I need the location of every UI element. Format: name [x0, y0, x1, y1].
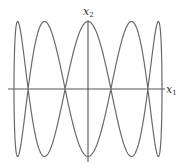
x2-axis-label: x2: [83, 6, 94, 19]
x1-axis-label: x1: [166, 84, 177, 97]
lissajous-figure: [0, 0, 188, 167]
